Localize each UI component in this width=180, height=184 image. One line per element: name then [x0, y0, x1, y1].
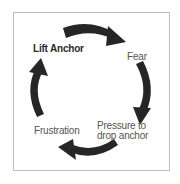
node-fear: Fear: [127, 52, 147, 62]
node-lift-anchor: Lift Anchor: [33, 44, 84, 54]
node-pressure: Pressure to drop anchor: [97, 121, 137, 141]
cycle-arrows: [0, 0, 180, 184]
arrow-fear-to-pressure-icon: [133, 61, 151, 125]
arrow-pressure-to-frustration-icon: [58, 139, 118, 160]
node-frustration: Frustration: [34, 126, 80, 136]
arrow-frustration-to-lift-icon: [29, 58, 48, 117]
node-pressure-line2: drop anchor: [97, 131, 137, 141]
